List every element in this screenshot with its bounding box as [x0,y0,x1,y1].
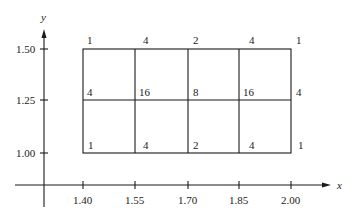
x-tick-label: 1.85 [229,194,249,206]
weight-label: 16 [139,86,151,98]
weight-label: 1 [87,34,93,46]
x-tick-label: 1.55 [125,194,145,206]
weight-label: 1 [296,34,302,46]
x-tick-label: 1.40 [73,194,93,206]
weight-label: 2 [193,139,199,151]
x-axis-label: x [336,179,342,191]
weight-label: 4 [249,34,255,46]
y-tick-label: 1.00 [16,147,36,159]
weight-label: 4 [249,139,255,151]
y-tick-label: 1.25 [16,94,36,106]
weight-label: 8 [193,86,199,98]
weight-label: 2 [193,34,199,46]
weight-label: 4 [143,139,149,151]
weight-label: 4 [296,86,302,98]
y-axis-label: y [40,11,46,23]
grid-boundary [83,49,291,153]
weight-label: 4 [143,34,149,46]
weight-label: 4 [87,86,93,98]
simpson-grid-diagram: y x 1.50 1.25 1.00 1.40 1.55 1.70 1.85 2… [0,0,357,220]
weight-label: 1 [88,139,94,151]
weight-label: 16 [243,86,255,98]
weight-label: 1 [298,139,304,151]
x-axis-arrow-icon [322,183,331,188]
x-tick-label: 1.70 [178,194,198,206]
y-tick-label: 1.50 [16,43,36,55]
x-tick-label: 2.00 [281,194,301,206]
y-axis-arrow-icon [42,29,47,38]
